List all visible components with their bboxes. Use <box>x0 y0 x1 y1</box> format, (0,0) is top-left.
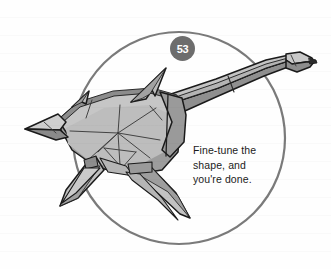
step-number-label: 53 <box>177 43 189 55</box>
step-number-badge: 53 <box>170 36 195 61</box>
step-illustration-svg <box>0 0 331 269</box>
flipper-left-upper-blade <box>62 168 100 203</box>
caption-line-2: shape, and <box>193 158 288 173</box>
origami-step-page: 53 Fine-tune the shape, and you're done. <box>0 0 331 269</box>
origami-figure <box>25 52 317 220</box>
step-caption: Fine-tune the shape, and you're done. <box>193 143 288 187</box>
neck-mid-face <box>170 58 288 103</box>
caption-line-3: you're done. <box>193 172 288 187</box>
caption-line-1: Fine-tune the <box>193 143 288 158</box>
head-snout-tip <box>309 58 317 64</box>
tail-point-upper <box>25 114 66 130</box>
tail-point-lower <box>25 129 68 140</box>
flipper-right-hinge <box>128 162 152 174</box>
